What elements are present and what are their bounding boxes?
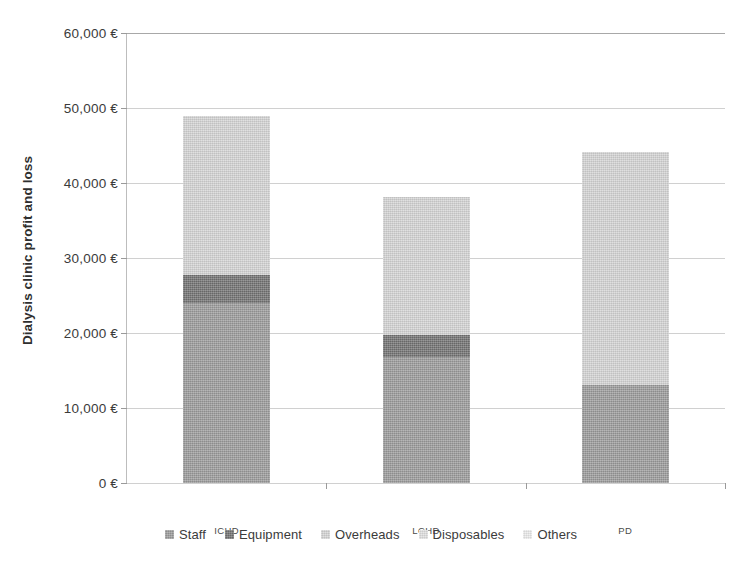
legend-swatch-icon — [225, 530, 234, 539]
plot-area: ICHDLCHDPD — [127, 33, 725, 483]
legend-label: Others — [537, 527, 577, 542]
y-axis-tick-mark — [121, 258, 127, 259]
legend-swatch-icon — [165, 530, 174, 539]
y-axis-tick-label: 10,000 € — [64, 401, 118, 416]
y-axis-tick-label: 30,000 € — [64, 251, 118, 266]
y-axis-tick-label: 40,000 € — [64, 176, 118, 191]
bar-segment-staff[interactable] — [383, 357, 470, 483]
legend-label: Equipment — [239, 527, 302, 542]
y-axis-tick-mark — [121, 483, 127, 484]
y-axis-tick-label: 20,000 € — [64, 326, 118, 341]
y-axis-tick-label: 60,000 € — [64, 26, 118, 41]
bar-group-lchd[interactable] — [383, 33, 470, 483]
legend-item-staff[interactable]: Staff — [165, 527, 206, 542]
bar-stack — [183, 33, 270, 483]
x-axis-tick-mark — [725, 483, 726, 489]
bar-segment-equipment[interactable] — [383, 335, 470, 357]
legend-item-overheads[interactable]: Overheads — [321, 527, 400, 542]
bar-segment-overheads[interactable] — [183, 116, 270, 276]
y-axis-tick-labels: 0 €10,000 €20,000 €30,000 €40,000 €50,00… — [42, 0, 124, 520]
legend-item-equipment[interactable]: Equipment — [225, 527, 302, 542]
bar-segment-overheads[interactable] — [582, 152, 669, 385]
y-axis-tick-mark — [121, 108, 127, 109]
legend-label: Disposables — [433, 527, 505, 542]
legend-item-disposables[interactable]: Disposables — [419, 527, 505, 542]
legend-item-others[interactable]: Others — [523, 527, 577, 542]
y-axis-tick-mark — [121, 333, 127, 334]
chart-legend: StaffEquipmentOverheadsDisposablesOthers — [0, 527, 742, 542]
bar-segment-overheads[interactable] — [383, 197, 470, 336]
bar-group-pd[interactable] — [582, 33, 669, 483]
x-axis-tick-mark — [526, 483, 527, 489]
legend-label: Overheads — [335, 527, 400, 542]
bar-group-ichd[interactable] — [183, 33, 270, 483]
y-axis-title: Dialysis clinic profit and loss — [14, 0, 42, 500]
y-axis-tick-label: 0 € — [99, 476, 118, 491]
legend-swatch-icon — [419, 530, 428, 539]
legend-swatch-icon — [523, 530, 532, 539]
bar-stack — [582, 33, 669, 483]
bar-stack — [383, 33, 470, 483]
gridline — [127, 483, 725, 484]
x-axis-tick-mark — [326, 483, 327, 489]
y-axis-title-text: Dialysis clinic profit and loss — [21, 155, 36, 344]
legend-swatch-icon — [321, 530, 330, 539]
y-axis-tick-label: 50,000 € — [64, 101, 118, 116]
stacked-bar-chart: Dialysis clinic profit and loss 0 €10,00… — [0, 0, 742, 567]
bar-segment-staff[interactable] — [582, 385, 669, 483]
y-axis-tick-mark — [121, 183, 127, 184]
y-axis-tick-mark — [121, 33, 127, 34]
legend-label: Staff — [179, 527, 206, 542]
y-axis-tick-mark — [121, 408, 127, 409]
bar-segment-equipment[interactable] — [183, 275, 270, 303]
bar-segment-staff[interactable] — [183, 303, 270, 483]
